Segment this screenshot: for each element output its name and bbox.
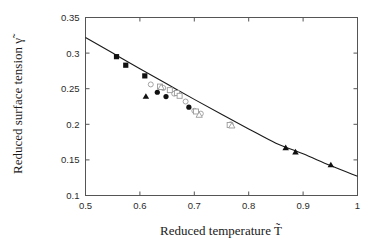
y-tick-label: 0.25 [61, 83, 80, 94]
data-point-open-square [177, 93, 182, 98]
tick-labels-group: 0.50.60.70.80.910.10.150.20.250.30.35 [61, 12, 360, 211]
data-point-open-circle [148, 82, 153, 87]
x-tick-label: 0.5 [79, 200, 92, 211]
y-tick-label: 0.15 [61, 154, 80, 165]
data-point-filled-circle [155, 90, 160, 95]
y-tick-label: 0.1 [66, 190, 79, 201]
plot-frame [86, 18, 358, 196]
data-markers-group [114, 54, 334, 167]
y-tick-label: 0.3 [66, 48, 79, 59]
x-tick-label: 0.6 [133, 200, 146, 211]
data-point-open-square [193, 109, 198, 114]
figure-container: 0.50.60.70.80.910.10.150.20.250.30.35 Re… [0, 0, 375, 241]
y-tick-label: 0.35 [61, 12, 80, 23]
data-point-filled-square [123, 63, 128, 68]
data-point-filled-triangle [282, 145, 289, 151]
x-tick-label: 0.9 [296, 200, 309, 211]
data-point-filled-triangle [143, 93, 150, 99]
tick-marks-group [86, 18, 358, 196]
y-axis-title: Reduced surface tension γ̃ [10, 33, 25, 174]
data-point-open-square [167, 88, 172, 93]
x-tick-label: 0.8 [242, 200, 255, 211]
data-point-filled-square [142, 73, 147, 78]
x-tick-label: 0.7 [188, 200, 201, 211]
series-filled-triangle [143, 93, 334, 167]
data-point-open-circle [183, 99, 188, 104]
model-curve [86, 37, 358, 176]
series-open-square [158, 84, 233, 127]
x-axis-title: Reduced temperature T̃ [160, 223, 282, 238]
series-filled-square [114, 54, 147, 78]
data-point-filled-circle [186, 105, 191, 110]
data-point-filled-square [114, 54, 119, 59]
data-point-filled-circle [163, 94, 168, 99]
x-tick-label: 1 [355, 200, 360, 211]
scatter-plot: 0.50.60.70.80.910.10.150.20.250.30.35 Re… [0, 0, 375, 241]
y-tick-label: 0.2 [66, 119, 79, 130]
